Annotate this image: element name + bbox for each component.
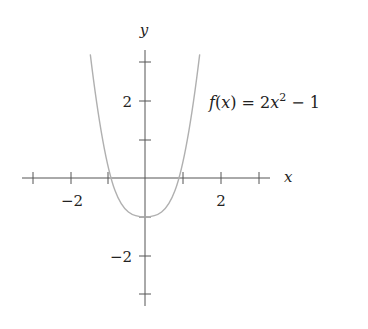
y-tick-label-neg2: −2	[110, 248, 132, 266]
x-tick-label-2: 2	[216, 192, 226, 210]
y-axis-label: y	[139, 21, 149, 39]
x-axis-label: x	[284, 168, 293, 186]
x-tick-label-neg2: −2	[61, 192, 83, 210]
y-tick-label-2: 2	[122, 93, 132, 111]
function-plot: −2 2 2 −2 x y f(x) = 2x2 − 1	[0, 0, 368, 329]
function-label: f(x) = 2x2 − 1	[208, 91, 320, 112]
